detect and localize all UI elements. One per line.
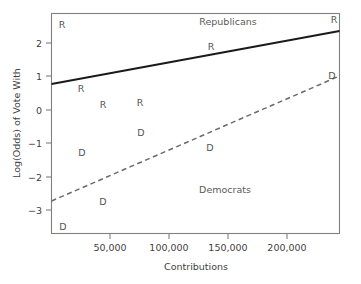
data-point-marker: R bbox=[59, 19, 66, 30]
x-tick-label: 100,000 bbox=[149, 242, 188, 253]
y-tick-label: −3 bbox=[28, 205, 42, 216]
scatter-plot-figure: 2 1 0 −1 −2 −3 50,000 100,000 150,000 20… bbox=[0, 0, 361, 284]
data-point-marker: D bbox=[78, 147, 85, 158]
x-tick-label: 50,000 bbox=[93, 242, 126, 253]
democrat-points: D D D D D D bbox=[59, 70, 335, 232]
y-axis-ticks bbox=[46, 43, 52, 210]
y-axis-title: Log(Odds) of Vote With bbox=[11, 68, 22, 178]
annotation-democrats: Democrats bbox=[199, 184, 251, 195]
data-point-marker: D bbox=[137, 127, 144, 138]
data-point-marker: R bbox=[208, 41, 215, 52]
y-tick-label: −1 bbox=[28, 138, 42, 149]
data-point-marker: D bbox=[328, 70, 335, 81]
data-point-marker: D bbox=[59, 221, 66, 232]
data-point-marker: R bbox=[137, 97, 144, 108]
x-tick-label: 200,000 bbox=[267, 242, 306, 253]
y-tick-label: −2 bbox=[28, 172, 42, 183]
data-point-marker: R bbox=[78, 83, 85, 94]
y-tick-label: 2 bbox=[36, 38, 42, 49]
data-point-marker: R bbox=[331, 14, 338, 25]
annotation-republicans: Republicans bbox=[199, 16, 256, 27]
data-point-marker: R bbox=[100, 99, 107, 110]
data-point-marker: D bbox=[206, 142, 213, 153]
x-axis-title: Contributions bbox=[164, 261, 228, 272]
plot-frame bbox=[52, 14, 340, 234]
y-tick-label: 1 bbox=[36, 71, 42, 82]
democrat-fit-line bbox=[52, 76, 340, 201]
data-point-marker: D bbox=[99, 196, 106, 207]
x-tick-label: 150,000 bbox=[208, 242, 247, 253]
x-axis-ticks bbox=[110, 234, 287, 240]
republican-fit-line bbox=[52, 31, 340, 84]
y-tick-label: 0 bbox=[36, 105, 42, 116]
x-axis-tick-labels: 50,000 100,000 150,000 200,000 bbox=[93, 242, 306, 253]
chart-canvas: 2 1 0 −1 −2 −3 50,000 100,000 150,000 20… bbox=[0, 0, 361, 284]
y-axis-tick-labels: 2 1 0 −1 −2 −3 bbox=[28, 38, 42, 216]
